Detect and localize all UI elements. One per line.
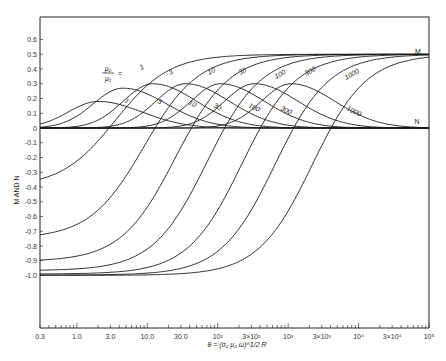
curve-m-1000	[40, 57, 429, 275]
x-tick-label: 3.0	[106, 333, 116, 340]
x-tick-label: 3×10³	[313, 333, 332, 340]
curve-m-10	[40, 54, 429, 260]
m-curve-label: 300	[303, 65, 317, 77]
y-tick-label: -0.3	[25, 169, 37, 176]
m-curve-label: 1	[138, 63, 145, 71]
y-tick-label: -0.4	[25, 184, 37, 191]
y-axis-title: M AND N	[13, 175, 20, 204]
n-curve-label: 1000	[346, 105, 363, 118]
y-tick-label: -0.8	[25, 243, 37, 250]
y-tick-label: 0.4	[27, 66, 37, 73]
chart: 0.60.50.40.30.20.10-0.1-0.2-0.3-0.4-0.5-…	[0, 0, 446, 361]
svg-text:μ₂: μ₂	[104, 65, 112, 73]
curve-m-1	[40, 54, 429, 179]
curve-m-3	[40, 54, 429, 234]
x-tick-label: 10²	[213, 333, 224, 340]
x-tick-label: 10³	[283, 333, 294, 340]
x-tick-label: 3×10⁴	[383, 333, 402, 340]
x-tick-label: 0.3	[35, 333, 45, 340]
svg-text:=: =	[118, 70, 122, 77]
x-tick-label: 10⁴	[353, 333, 364, 340]
m-curve-label: 30	[237, 66, 247, 76]
y-tick-label: 0	[33, 125, 37, 132]
curve-m-30	[40, 54, 429, 270]
x-tick-label: 30.0	[174, 333, 188, 340]
y-tick-label: -0.9	[25, 257, 37, 264]
y-tick-label: -0.7	[25, 228, 37, 235]
curve-m-300	[40, 55, 429, 275]
x-axis: 0.31.03.010.030.010²3×10²10³3×10³10⁴3×10…	[35, 323, 434, 340]
x-tick-label: 1.0	[72, 333, 82, 340]
x-tick-label: 10⁵	[424, 333, 435, 340]
y-tick-label: -1.0	[25, 272, 37, 279]
y-tick-label: 0.2	[27, 95, 37, 102]
y-tick-label: -0.2	[25, 154, 37, 161]
y-tick-label: 0.3	[27, 80, 37, 87]
x-tick-label: 3×10²	[242, 333, 261, 340]
y-tick-label: -0.6	[25, 213, 37, 220]
y-tick-label: -0.5	[25, 198, 37, 205]
plot-frame	[40, 17, 429, 328]
y-tick-label: 0.6	[27, 36, 37, 43]
y-tick-label: 0.5	[27, 51, 37, 58]
curve-m-100	[40, 55, 429, 274]
n-curve-label: 30	[213, 102, 223, 112]
x-axis-title: θ = (σ₂ μ₂ ω)^1/2 R	[207, 341, 266, 349]
x-tick-label: 10.0	[140, 333, 154, 340]
curve-n-1000	[40, 84, 429, 128]
m-curve-label: 10	[206, 66, 216, 76]
curve-n-1	[40, 102, 429, 129]
curves	[40, 54, 429, 275]
parameter-label: μ₂ μ₁ =	[102, 65, 122, 83]
series-label-m: M	[415, 48, 421, 55]
curve-n-3	[40, 88, 429, 128]
series-label-n: N	[414, 118, 419, 125]
svg-text:μ₁: μ₁	[104, 75, 112, 83]
y-tick-label: 0.1	[27, 110, 37, 117]
n-curve-label: 10	[188, 99, 198, 109]
y-tick-label: -0.1	[25, 139, 37, 146]
m-curve-label: 3	[167, 68, 174, 76]
